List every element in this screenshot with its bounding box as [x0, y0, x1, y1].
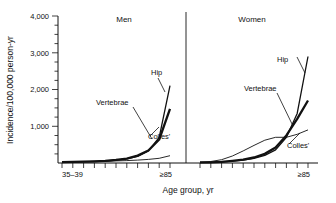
y-axis-title: Incidence/100,000 person-yr [5, 36, 15, 144]
y-tick-label-2000: 2,000 [30, 85, 49, 94]
leader-women-vertebrae [277, 93, 293, 126]
label-men-hip: Hip [151, 68, 162, 77]
x-tick-label-women-end: ≥85 [298, 170, 310, 179]
y-tick-label-4000: 4,000 [30, 12, 49, 21]
x-tick-label-men-end: ≥85 [160, 170, 172, 179]
x-tick-label-men-start: 35–39 [62, 170, 83, 179]
x-axis-title: Age group, yr [162, 185, 213, 195]
figure-container: 4,000 3,000 2,000 1,000 Incidence/100,00… [0, 0, 336, 203]
curve-women-vertebrae [200, 101, 308, 163]
panel-title-women: Women [238, 15, 265, 24]
leader-men-hip [158, 78, 165, 92]
label-men-vertebrae: Vertebrae [96, 98, 129, 107]
leader-women-hip [297, 57, 305, 73]
y-tick-label-1000: 1,000 [30, 122, 49, 131]
panel-title-men: Men [116, 15, 132, 24]
label-men-colles: Colles' [148, 132, 171, 141]
x-axis: 35–39 ≥85 ≥85 [58, 163, 318, 179]
incidence-by-age-chart: 4,000 3,000 2,000 1,000 Incidence/100,00… [0, 0, 336, 203]
label-women-hip: Hip [277, 55, 288, 64]
y-tick-label-3000: 3,000 [30, 49, 49, 58]
y-axis: 4,000 3,000 2,000 1,000 [30, 12, 58, 163]
label-women-vertebrae: Vertebrae [244, 84, 277, 93]
